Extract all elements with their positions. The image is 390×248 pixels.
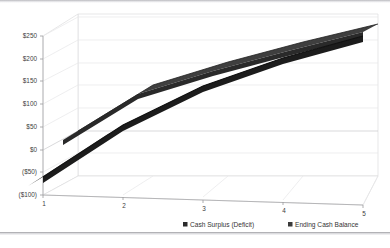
chart-legend: Cash Surplus (Deficit) Ending Cash Balan…	[183, 221, 359, 229]
legend-marker-square-icon	[288, 222, 293, 227]
y-tick-label: $0	[30, 146, 38, 153]
x-tick-label: 2	[122, 202, 126, 209]
y-tick-label: $250	[23, 32, 38, 39]
y-tick-label: $200	[23, 55, 38, 62]
x-tick-label: 4	[282, 207, 286, 214]
x-tick-label: 1	[42, 200, 46, 207]
chart-canvas: $250 $200 $150 $100 $50 $0 ($50) ($100) …	[0, 0, 390, 248]
chart-3d-area: $250 $200 $150 $100 $50 $0 ($50) ($100) …	[0, 0, 390, 248]
y-tick-labels: $250 $200 $150 $100 $50 $0 ($50) ($100)	[19, 32, 38, 199]
x-tick-label: 5	[362, 210, 366, 217]
legend-marker-square-icon	[183, 222, 188, 227]
y-tick-label: ($100)	[19, 191, 37, 199]
legend-label: Ending Cash Balance	[295, 221, 359, 229]
legend-label: Cash Surplus (Deficit)	[190, 221, 254, 229]
y-tick-label: $150	[23, 77, 38, 84]
y-tick-label: ($50)	[22, 168, 37, 176]
y-tick-label: $50	[26, 123, 37, 130]
y-tick-label: $100	[23, 100, 38, 107]
x-tick-label: 3	[202, 205, 206, 212]
y-axis	[40, 36, 43, 195]
